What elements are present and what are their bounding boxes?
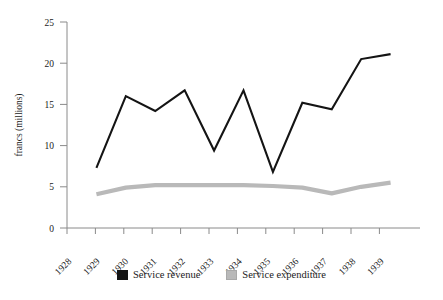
y-tick-label: 0 [49,224,54,234]
series-line-service-revenue [96,54,390,172]
legend-entry-service-expenditure: Service expenditure [226,269,326,280]
x-axis-ticks [67,228,379,234]
legend-entry-service-revenue: Service revenue [117,269,200,280]
line-chart-canvas: francs (millions) 25 20 15 10 5 0 [0,0,443,300]
y-tick-label: 10 [45,141,55,151]
series-line-service-expenditure [96,183,390,195]
y-tick-label: 5 [49,182,54,192]
y-tick-label: 20 [45,59,55,69]
y-axis-ticks [60,22,67,228]
y-axis-title: francs (millions) [14,93,25,156]
legend-label: Service revenue [133,269,200,280]
legend-label: Service expenditure [242,269,326,280]
y-tick-label: 15 [45,100,55,110]
chart-figure: francs (millions) 25 20 15 10 5 0 [0,0,443,300]
y-axis-tick-labels: 25 20 15 10 5 0 [45,18,55,234]
chart-legend: Service revenue Service expenditure [0,269,443,280]
y-tick-label: 25 [45,18,55,28]
legend-swatch-icon [226,270,237,280]
legend-swatch-icon [117,270,128,280]
